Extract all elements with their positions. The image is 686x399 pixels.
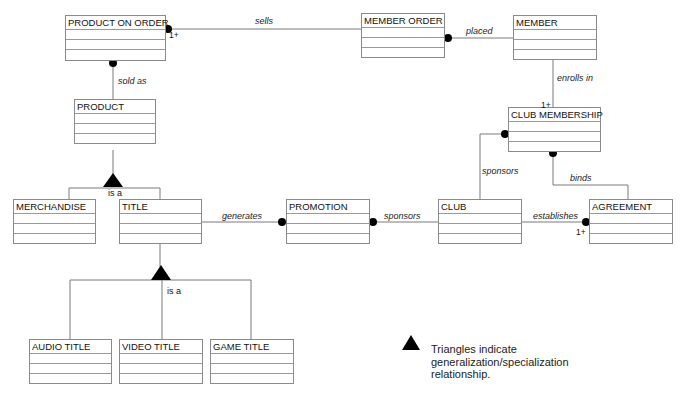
entity-member-order[interactable]: MEMBER ORDER — [361, 13, 445, 58]
attribute-row — [211, 364, 293, 374]
entity-title: PROMOTION — [287, 200, 369, 214]
entity-title: AUDIO TITLE — [30, 340, 111, 354]
attribute-row — [66, 30, 165, 40]
entity-game-title[interactable]: GAME TITLE — [210, 339, 294, 384]
relationship-label-establishes: establishes — [533, 211, 578, 221]
relationship-label-sponsors-membership: sponsors — [482, 166, 519, 176]
entity-club[interactable]: CLUB — [438, 199, 522, 244]
attribute-row — [120, 354, 202, 364]
entity-video-title[interactable]: VIDEO TITLE — [119, 339, 203, 384]
attribute-row — [66, 50, 165, 60]
relationship-label-enrolls-in: enrolls in — [557, 73, 593, 83]
entity-title: AGREEMENT — [590, 200, 672, 214]
attribute-row — [590, 224, 672, 234]
attribute-row — [14, 224, 95, 234]
attribute-row — [66, 40, 165, 50]
attribute-row — [509, 122, 600, 132]
attribute-row — [514, 50, 596, 60]
attribute-row — [362, 38, 444, 48]
entity-audio-title[interactable]: AUDIO TITLE — [29, 339, 112, 384]
entity-merchandise[interactable]: MERCHANDISE — [13, 199, 96, 244]
entity-promotion[interactable]: PROMOTION — [286, 199, 370, 244]
isa-label-title: is a — [167, 286, 181, 296]
entity-title: PRODUCT ON ORDER — [66, 16, 165, 30]
attribute-row — [509, 142, 600, 152]
legend-text: Triangles indicate generalization/specia… — [431, 343, 611, 381]
attribute-row — [211, 354, 293, 364]
attribute-row — [509, 132, 600, 142]
attribute-row — [211, 374, 293, 384]
entity-club-membership[interactable]: CLUB MEMBERSHIP — [508, 107, 601, 152]
entity-title: CLUB MEMBERSHIP — [509, 108, 600, 122]
generalization-triangle-icon — [103, 173, 123, 187]
relationship-label-binds: binds — [570, 173, 592, 183]
generalization-triangle-icon — [151, 265, 171, 280]
relationship-label-generates: generates — [222, 211, 262, 221]
attribute-row — [439, 234, 521, 244]
attribute-row — [120, 234, 201, 244]
attribute-row — [120, 364, 202, 374]
attribute-row — [287, 234, 369, 244]
entity-agreement[interactable]: AGREEMENT — [589, 199, 673, 244]
entity-title: TITLE — [120, 200, 201, 214]
entity-title: PRODUCT — [75, 100, 155, 114]
attribute-row — [362, 48, 444, 58]
entity-title: VIDEO TITLE — [120, 340, 202, 354]
attribute-row — [439, 214, 521, 224]
attribute-row — [30, 354, 111, 364]
entity-title: MEMBER ORDER — [362, 14, 444, 28]
multiplicity-establishes: 1+ — [576, 227, 586, 237]
attribute-row — [590, 214, 672, 224]
entity-product-on-order[interactable]: PRODUCT ON ORDER — [65, 15, 166, 61]
attribute-row — [30, 374, 111, 384]
attribute-row — [75, 134, 155, 144]
relationship-label-placed: placed — [466, 26, 493, 36]
attribute-row — [362, 28, 444, 38]
attribute-row — [14, 234, 95, 244]
attribute-row — [75, 124, 155, 134]
multiplicity-sells: 1+ — [169, 30, 179, 40]
entity-product[interactable]: PRODUCT — [74, 99, 156, 144]
isa-label-product: is a — [108, 188, 122, 198]
attribute-row — [514, 40, 596, 50]
attribute-row — [514, 30, 596, 40]
attribute-row — [287, 214, 369, 224]
attribute-row — [439, 224, 521, 234]
attribute-row — [120, 214, 201, 224]
attribute-row — [120, 224, 201, 234]
entity-title: CLUB — [439, 200, 521, 214]
relationship-label-sponsors-promotion: sponsors — [384, 211, 421, 221]
attribute-row — [14, 214, 95, 224]
attribute-row — [590, 234, 672, 244]
attribute-row — [75, 114, 155, 124]
relationship-label-sells: sells — [255, 16, 273, 26]
entity-member[interactable]: MEMBER — [513, 15, 597, 60]
multiplicity-enrolls-in: 1+ — [541, 100, 551, 110]
entity-title: MERCHANDISE — [14, 200, 95, 214]
attribute-row — [30, 364, 111, 374]
entity-title: MEMBER — [514, 16, 596, 30]
attribute-row — [287, 224, 369, 234]
entity-title[interactable]: TITLE — [119, 199, 202, 244]
entity-title: GAME TITLE — [211, 340, 293, 354]
legend-triangle-icon — [402, 335, 420, 350]
relationship-label-sold-as: sold as — [118, 76, 147, 86]
attribute-row — [120, 374, 202, 384]
